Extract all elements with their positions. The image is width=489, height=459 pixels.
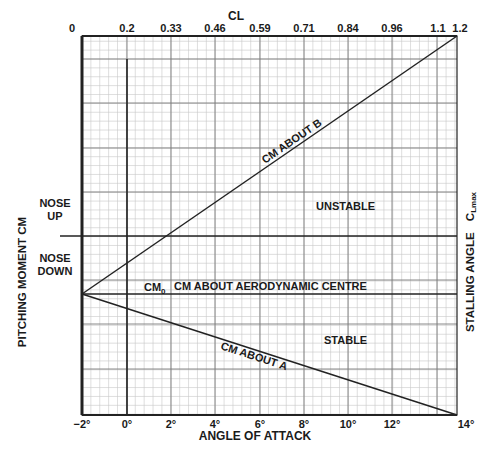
cm-about-b-line	[82, 36, 457, 294]
cm-about-a-label: CM ABOUT A	[219, 339, 289, 372]
stable-label: STABLE	[324, 334, 367, 346]
top-tick-label: 0	[69, 22, 75, 34]
top-axis-title: CL	[228, 9, 244, 23]
bottom-tick-label: −2°	[74, 418, 91, 430]
stalling-angle-label: STALLING ANGLE	[464, 232, 476, 332]
left-axis-title: PITCHING MOMENT CM	[16, 217, 28, 347]
top-tick-label: 0.46	[204, 22, 225, 34]
unstable-label: UNSTABLE	[316, 200, 375, 212]
top-tick-label: 0.59	[249, 22, 270, 34]
nose-up-line2: UP	[47, 210, 62, 222]
cl-symbol: C	[464, 213, 476, 221]
bottom-tick-label: 2°	[166, 418, 177, 430]
right-axis-title: STALLING ANGLE CLmax	[464, 191, 478, 332]
cl-max-subscript: Lmax	[469, 191, 478, 212]
cm-about-b-label: CM ABOUT B	[259, 116, 323, 165]
pitching-moment-diagram: CL 00.20.330.460.590.710.840.961.11.2 −2…	[0, 0, 489, 459]
aerodynamic-centre-label: CM ABOUT AERODYNAMIC CENTRE	[174, 280, 367, 292]
top-tick-label: 1.2	[452, 22, 467, 34]
top-tick-label: 0.71	[293, 22, 314, 34]
top-tick-label: 0.2	[119, 22, 134, 34]
top-tick-label: 1.1	[430, 22, 445, 34]
bottom-tick-label: 14°	[458, 418, 475, 430]
top-tick-label: 0.84	[337, 22, 359, 34]
nose-down-line2: DOWN	[38, 265, 73, 277]
top-tick-label: 0.33	[160, 22, 181, 34]
top-tick-labels: 00.20.330.460.590.710.840.961.11.2	[69, 22, 468, 34]
top-tick-label: 0.96	[381, 22, 402, 34]
bottom-tick-label: 0°	[122, 418, 133, 430]
bottom-tick-label: 10°	[340, 418, 357, 430]
nose-up-line1: NOSE	[39, 197, 70, 209]
nose-down-line1: NOSE	[39, 252, 70, 264]
svg-text:STALLING ANGLE CLmax: STALLING ANGLE CLmax	[464, 191, 478, 332]
bottom-axis-title: ANGLE OF ATTACK	[199, 429, 312, 443]
bottom-tick-label: 12°	[384, 418, 401, 430]
